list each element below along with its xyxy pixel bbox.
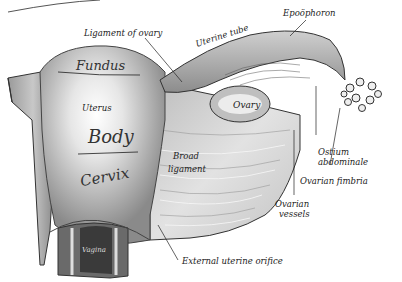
label-uterus: Uterus xyxy=(82,104,112,113)
label-ligament-of-ovary: Ligament of ovary xyxy=(84,29,162,38)
label-vagina: Vagina xyxy=(82,247,106,254)
anatomy-illustration: Ligament of ovary Uterine tube Epoöphoro… xyxy=(0,0,402,282)
label-external-uterine-orifice: External uterine orifice xyxy=(182,257,283,266)
label-ostium-2: abdominale xyxy=(318,158,368,167)
label-broad-ligament-1: Broad xyxy=(173,152,199,161)
label-ovarian-vessels-1: Ovarian xyxy=(275,200,309,209)
label-ovarian-fimbria: Ovarian fimbria xyxy=(300,177,368,186)
label-ovarian-vessels-2: vessels xyxy=(279,210,310,219)
handwritten-body: Body xyxy=(88,126,134,147)
label-broad-ligament-2: ligament xyxy=(168,165,206,174)
label-ostium-1: Ostium xyxy=(318,148,349,157)
handwritten-fundus: Fundus xyxy=(76,58,125,73)
label-epoophoron: Epoöphoron xyxy=(283,9,336,18)
label-ovary: Ovary xyxy=(233,101,260,110)
